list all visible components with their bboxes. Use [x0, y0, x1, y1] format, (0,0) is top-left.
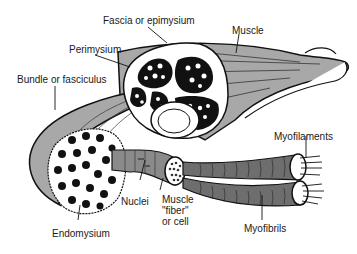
label-bundle: Bundle or fasciculus: [17, 74, 107, 85]
label-muscle: Muscle: [232, 25, 264, 36]
endomysium-section: [48, 129, 126, 214]
label-fiber-1: Muscle: [162, 194, 194, 205]
label-nuclei: Nuclei: [121, 196, 149, 207]
label-endomysium: Endomysium: [52, 228, 110, 239]
label-fascia: Fascia or epimysium: [103, 15, 195, 26]
label-myofibrils: Myofibrils: [244, 223, 286, 234]
label-perimysium: Perimysium: [69, 44, 121, 55]
myofibrils: [183, 154, 324, 206]
label-fiber-2: "fiber": [162, 205, 189, 216]
label-myofilaments: Myofilaments: [274, 131, 333, 142]
cross-section: [124, 43, 228, 138]
label-fiber-3: or cell: [162, 216, 189, 227]
